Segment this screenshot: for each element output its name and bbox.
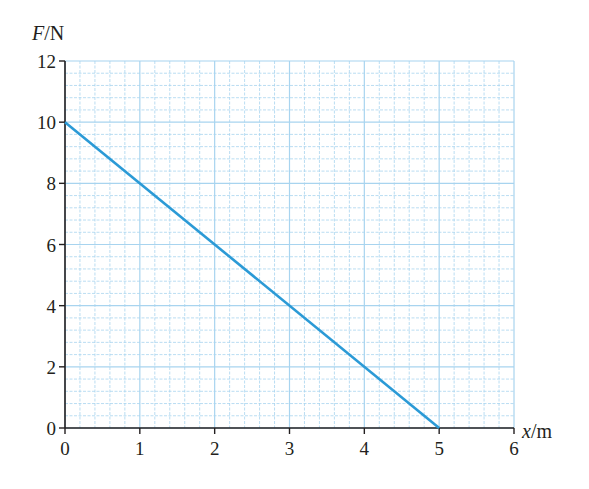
data-line [65,122,439,428]
x-tick-label: 4 [360,438,370,459]
y-tick-label: 2 [47,357,57,378]
tick-labels: 0246810120123456 [37,51,519,459]
y-tick-label: 10 [37,112,56,133]
x-tick-label: 0 [60,438,70,459]
force-displacement-chart: 0246810120123456 F/N x/m [0,0,589,489]
y-tick-label: 8 [47,173,57,194]
x-tick-label: 3 [285,438,295,459]
series-line [65,122,439,428]
x-tick-label: 5 [434,438,444,459]
x-axis-title: x/m [521,420,552,442]
y-tick-label: 4 [47,296,57,317]
x-tick-label: 6 [509,438,519,459]
axes [59,61,514,434]
grid [65,61,514,428]
y-tick-label: 6 [47,235,57,256]
x-tick-label: 1 [135,438,145,459]
y-tick-label: 12 [37,51,56,72]
y-tick-label: 0 [47,418,57,439]
y-axis-title: F/N [31,22,64,44]
x-tick-label: 2 [210,438,220,459]
